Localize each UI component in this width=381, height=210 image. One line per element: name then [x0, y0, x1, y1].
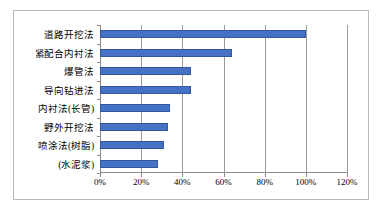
gridline — [347, 25, 348, 173]
plot-area — [100, 25, 347, 173]
category-label: 导向钻进法 — [14, 81, 98, 100]
bar-row — [100, 99, 347, 118]
bar-row — [100, 155, 347, 174]
bar — [100, 141, 164, 149]
bar — [100, 123, 168, 131]
bar — [100, 67, 191, 75]
bar-row — [100, 136, 347, 155]
bar — [100, 86, 191, 94]
bar-series — [100, 25, 347, 173]
category-label: 野外开挖法 — [14, 118, 98, 137]
value-axis-label: 120% — [337, 177, 358, 187]
value-axis-label: 80% — [256, 177, 273, 187]
value-axis-label: 100% — [295, 177, 316, 187]
bar — [100, 49, 232, 57]
value-axis-labels: 0%20%40%60%80%100%120% — [100, 177, 347, 193]
value-axis-label: 0% — [94, 177, 106, 187]
category-label: 紧配合内衬法 — [14, 44, 98, 63]
chart-frame: 道路开挖法 紧配合内衬法 爆管法 导向钻进法 内衬法(长管) 野外开挖法 喷涂法… — [13, 10, 369, 200]
bar-row — [100, 118, 347, 137]
category-label: (水泥浆) — [14, 155, 98, 174]
bar-chart: 道路开挖法 紧配合内衬法 爆管法 导向钻进法 内衬法(长管) 野外开挖法 喷涂法… — [14, 11, 370, 201]
category-axis-labels: 道路开挖法 紧配合内衬法 爆管法 导向钻进法 内衬法(长管) 野外开挖法 喷涂法… — [14, 25, 98, 173]
bar-row — [100, 81, 347, 100]
bar — [100, 30, 306, 38]
category-label: 道路开挖法 — [14, 25, 98, 44]
bar-row — [100, 62, 347, 81]
value-axis-label: 40% — [174, 177, 191, 187]
category-label: 爆管法 — [14, 62, 98, 81]
category-label: 内衬法(长管) — [14, 99, 98, 118]
value-axis-label: 20% — [133, 177, 150, 187]
value-axis-label: 60% — [215, 177, 232, 187]
category-label: 喷涂法(树脂) — [14, 136, 98, 155]
bar-row — [100, 25, 347, 44]
bar — [100, 104, 170, 112]
bar-row — [100, 44, 347, 63]
bar — [100, 160, 158, 168]
